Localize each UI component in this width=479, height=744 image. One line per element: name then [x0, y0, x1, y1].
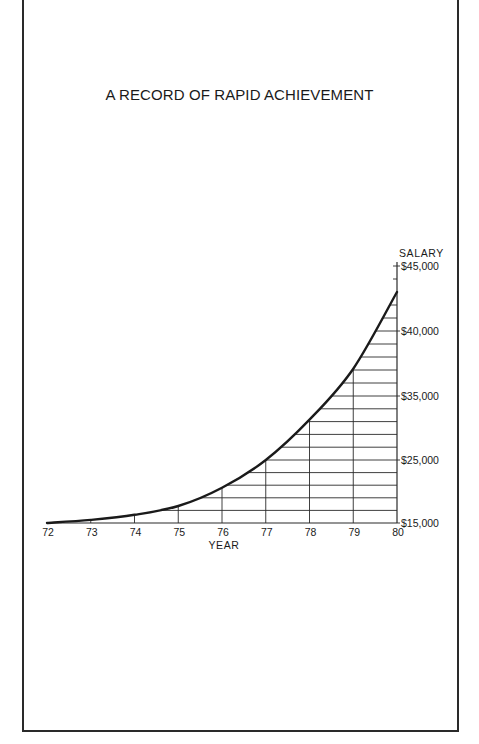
y-axis-label: $15,000: [401, 517, 439, 529]
y-axis-label: $45,000: [401, 260, 439, 272]
x-axis-label: 79: [348, 526, 360, 538]
x-axis-label: 75: [173, 526, 185, 538]
horizontal-gridlines: [47, 279, 397, 510]
x-axis-label: 80: [392, 526, 404, 538]
salary-curve: [47, 292, 397, 523]
x-axis-label: 76: [217, 526, 229, 538]
x-axis-label: 78: [305, 526, 317, 538]
x-axis-label: 73: [86, 526, 98, 538]
y-axis-label: $40,000: [401, 325, 439, 337]
x-axis-label: 72: [42, 526, 54, 538]
x-axis-label: 77: [261, 526, 273, 538]
y-axis-label: $25,000: [401, 454, 439, 466]
y-axis-label: $35,000: [401, 390, 439, 402]
salary-chart: SALARY $45,000$40,000$35,000$25,000$15,0…: [0, 0, 479, 744]
x-axis-title: YEAR: [209, 539, 240, 551]
x-axis-label: 74: [130, 526, 142, 538]
vertical-gridlines: [91, 266, 354, 523]
y-axis-labels: $45,000$40,000$35,000$25,000$15,000: [401, 260, 439, 529]
y-axis-title: SALARY: [399, 247, 444, 259]
x-axis-labels: 727374757677787980: [42, 526, 404, 538]
